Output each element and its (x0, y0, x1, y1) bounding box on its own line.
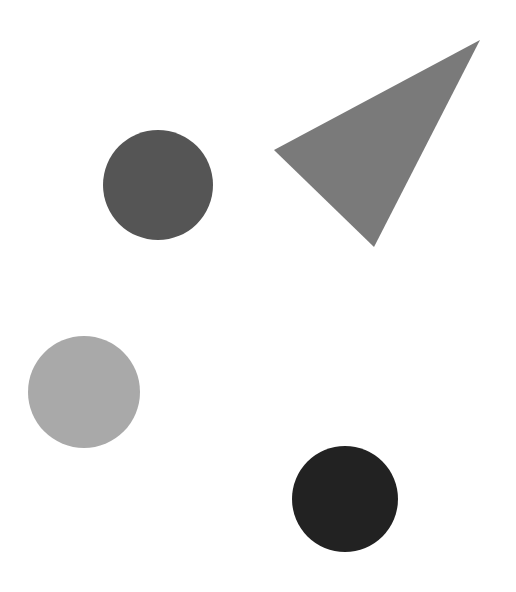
dark-gray-circle (103, 130, 213, 240)
shape-canvas (0, 0, 516, 592)
light-gray-circle (28, 336, 140, 448)
black-circle (292, 446, 398, 552)
